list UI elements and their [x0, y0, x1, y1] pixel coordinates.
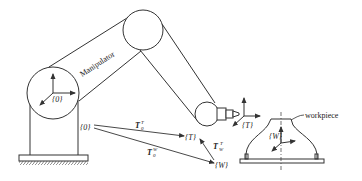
wrist-joint: [195, 102, 219, 126]
workpiece-frame-target-label: {W}: [215, 161, 229, 170]
ground-plate: [19, 155, 88, 161]
transform-T0T-label: T 0 T: [135, 120, 145, 131]
TWT-sub: W: [219, 147, 224, 152]
T0T-sub: 0: [141, 126, 144, 131]
elbow-joint: [123, 10, 163, 50]
workpiece-base-plate: [240, 159, 324, 163]
tool-tip: [233, 111, 239, 117]
workpiece-label: workpiece: [305, 111, 339, 120]
workpiece-y-axis: [272, 143, 281, 151]
T0W-sub: 0: [153, 153, 156, 158]
manipulator-label: Manipulator: [78, 49, 116, 78]
base-frame-joint-label: {0}: [52, 95, 63, 104]
tool-frame-label: {T}: [242, 121, 254, 130]
transform-T0W-label: T 0 W: [147, 147, 158, 158]
T0T-sup: T: [141, 120, 145, 125]
base-frame-label: {0}: [80, 123, 91, 132]
tool-frame-target-label: {T}: [185, 133, 197, 142]
tool-flange: [217, 108, 226, 120]
forearm-bottom: [140, 50, 200, 124]
forearm-top: [162, 24, 215, 103]
T0W-sup: W: [153, 147, 158, 152]
upper-arm-top: [49, 18, 127, 67]
TWT-sup: T: [220, 141, 224, 146]
workpiece-x-axis: [281, 141, 295, 143]
robot-diagram: Manipulator {0} {0} {T} {T} {W} {W} work…: [0, 0, 362, 181]
tool-body: [226, 110, 233, 118]
workpiece-frame-label: {W}: [269, 132, 283, 141]
ground-hatch: [19, 161, 88, 165]
transform-TWT-label: T W T: [213, 141, 224, 152]
workpiece-leader: [291, 115, 304, 120]
arrow-TWT: [200, 139, 214, 160]
